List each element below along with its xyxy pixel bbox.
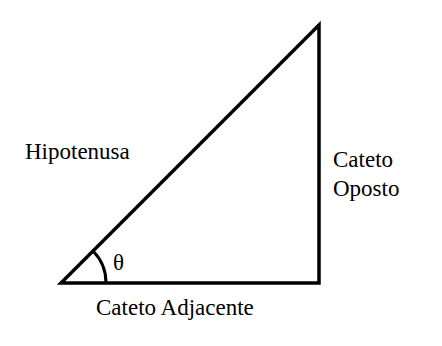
hypotenuse-label: Hipotenusa (25, 138, 130, 166)
adjacent-leg-label: Cateto Adjacente (96, 294, 254, 322)
right-triangle-diagram: Hipotenusa Cateto Oposto Cateto Adjacent… (0, 0, 442, 346)
opposite-leg-label-line2: Oposto (333, 175, 399, 203)
angle-arc (93, 251, 106, 283)
angle-theta-label: θ (113, 249, 124, 277)
opposite-leg-label-line1: Cateto (333, 146, 393, 174)
